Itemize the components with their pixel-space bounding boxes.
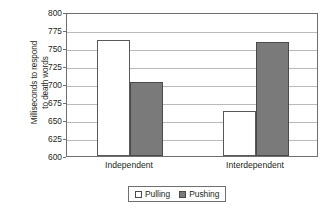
y-axis-title: Milliseconds to respond to death words <box>30 10 51 155</box>
y-axis-tick-mark <box>63 157 66 158</box>
x-axis-label-independent: Independent <box>69 160 189 170</box>
bar-chart-figure: Milliseconds to respond to death words 6… <box>0 0 330 208</box>
gray-square-icon <box>179 191 186 198</box>
plot-area <box>66 13 318 157</box>
legend-item-pulling: Pulling <box>135 190 170 199</box>
legend-label-pushing: Pushing <box>189 190 219 199</box>
chart-legend: Pulling Pushing <box>128 186 226 202</box>
y-axis-title-container: Milliseconds to respond to death words <box>0 0 40 160</box>
bar-independent-pushing <box>130 82 163 156</box>
bar-independent-pulling <box>97 40 130 156</box>
gridline <box>67 32 317 33</box>
white-square-icon <box>135 191 142 198</box>
x-axis-label-interdependent: Interdependent <box>195 160 315 170</box>
legend-label-pulling: Pulling <box>145 190 170 199</box>
legend-item-pushing: Pushing <box>179 190 219 199</box>
bar-interdependent-pushing <box>256 42 289 156</box>
bar-interdependent-pulling <box>223 111 256 156</box>
